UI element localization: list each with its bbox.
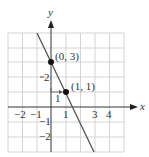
coordinate-plot: x y −2 −1 1 3 4 2 −1 −2 1 (0, 3) (1, 1) (0, 0, 149, 157)
point-0-3 (48, 59, 54, 65)
x-tick-labels: −2 −1 1 3 4 (14, 108, 112, 120)
point-1-1 (63, 89, 69, 95)
y-tick: −1 (39, 115, 51, 127)
point-label: (0, 3) (55, 50, 79, 63)
x-tick: 1 (63, 108, 69, 120)
x-tick: −2 (14, 108, 26, 120)
y-axis-arrow-icon (48, 20, 54, 28)
x-axis-arrow-icon (130, 104, 138, 110)
point-label: (1, 1) (71, 80, 95, 93)
points: (0, 3) (1, 1) (48, 50, 95, 95)
x-tick: 3 (92, 108, 98, 120)
run-label: 1 (55, 92, 61, 104)
run-arrow: 1 (51, 88, 63, 104)
x-tick: 4 (106, 108, 112, 120)
y-axis-label: y (47, 6, 53, 18)
x-axis-label: x (139, 100, 145, 112)
y-tick: −2 (39, 130, 51, 142)
y-tick: 2 (44, 71, 50, 83)
